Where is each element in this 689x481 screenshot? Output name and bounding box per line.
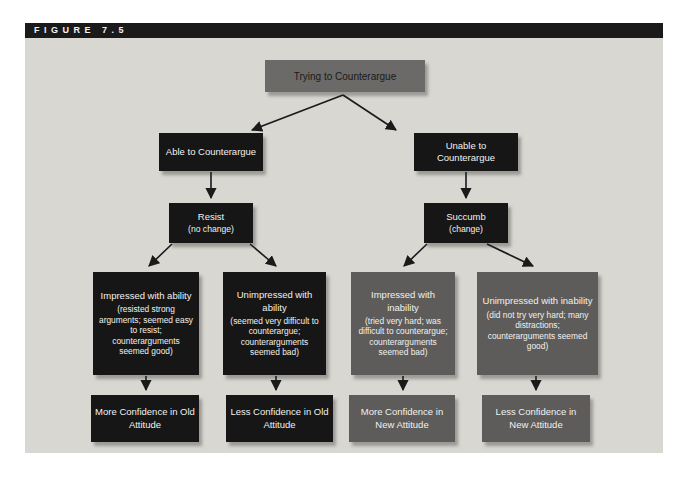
result-label: More Confidence in Old Attitude: [95, 406, 195, 431]
appraisal-title: Impressed with inability: [355, 289, 451, 314]
node-unable-label: Unable to Counterargue: [418, 140, 514, 165]
figure-label: FIGURE 7.5: [34, 26, 128, 35]
result-label: Less Confidence in Old Attitude: [230, 406, 329, 431]
node-trying-to-counterargue: Trying to Counterargue: [265, 60, 425, 92]
node-succumb-title: Succumb: [446, 211, 486, 223]
appraisal-title: Impressed with ability: [101, 290, 192, 302]
appraisal-detail: (resisted strong arguments; seemed easy …: [97, 304, 195, 357]
appraisal-title: Unimpressed with ability: [227, 289, 322, 314]
node-succumb: Succumb (change): [424, 203, 508, 243]
figure: FIGURE 7.5: [25, 23, 663, 453]
node-more-confidence-old: More Confidence in Old Attitude: [91, 395, 199, 442]
result-label: Less Confidence in New Attitude: [486, 406, 586, 431]
result-label: More Confidence in New Attitude: [353, 406, 451, 431]
node-unimpressed-with-inability: Unimpressed with inability (did not try …: [477, 272, 598, 375]
node-more-confidence-new: More Confidence in New Attitude: [349, 395, 455, 442]
appraisal-title: Unimpressed with inability: [483, 295, 593, 307]
node-able-label: Able to Counterargue: [166, 146, 256, 158]
figure-label-bar: FIGURE 7.5: [25, 23, 663, 38]
node-succumb-note: (change): [449, 224, 483, 235]
node-unimpressed-with-ability: Unimpressed with ability (seemed very di…: [223, 272, 326, 375]
node-trying-label: Trying to Counterargue: [294, 70, 396, 83]
appraisal-detail: (seemed very difficult to counterargue; …: [227, 316, 322, 358]
arrow-succumb-to-impressed: [404, 244, 427, 266]
node-impressed-with-inability: Impressed with inability (tried very har…: [351, 272, 455, 375]
arrow-root-to-able: [252, 95, 343, 130]
node-able-to-counterargue: Able to Counterargue: [159, 133, 263, 171]
arrow-resist-to-impressed: [149, 244, 172, 266]
node-impressed-with-ability: Impressed with ability (resisted strong …: [93, 272, 199, 375]
appraisal-detail: (tried very hard; was difficult to count…: [355, 316, 451, 358]
node-less-confidence-new: Less Confidence in New Attitude: [482, 395, 590, 442]
flow-arrows: [25, 38, 663, 453]
node-unable-to-counterargue: Unable to Counterargue: [414, 133, 518, 171]
arrow-root-to-unable: [343, 95, 396, 130]
node-resist-note: (no change): [188, 224, 234, 235]
node-resist-title: Resist: [198, 211, 224, 223]
arrow-succumb-to-unimpressed: [487, 244, 533, 266]
flowchart-canvas: Trying to Counterargue Able to Counterar…: [25, 38, 663, 453]
arrow-resist-to-unimpressed: [250, 244, 276, 266]
node-resist: Resist (no change): [169, 203, 253, 243]
node-less-confidence-old: Less Confidence in Old Attitude: [226, 395, 333, 442]
appraisal-detail: (did not try very hard; many distraction…: [481, 310, 594, 352]
